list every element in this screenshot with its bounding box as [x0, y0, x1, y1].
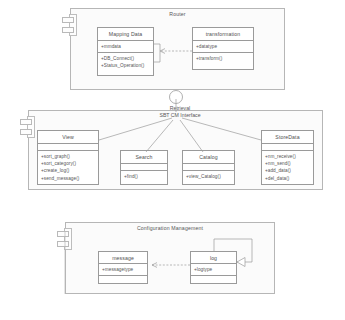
- class-message-attributes: +messagetype: [99, 264, 147, 276]
- component-icon-retrieval: [20, 116, 36, 138]
- class-view[interactable]: View +sort_graph() +sort_category() +cre…: [37, 130, 99, 185]
- component-router-title: Router: [71, 11, 284, 17]
- class-log-operations: [191, 276, 236, 283]
- component-configuration-management[interactable]: Configuration Management: [65, 222, 275, 294]
- class-transformation[interactable]: transformation +datatype +transform(): [192, 27, 254, 70]
- operation: +add_data(): [265, 167, 311, 174]
- operation: +create_log(): [41, 167, 96, 174]
- class-mapping-data-operations: +DB_Connect() +Status_Operation(): [98, 53, 153, 71]
- operation: +DB_Connect(): [101, 55, 151, 62]
- operation: +Status_Operation(): [101, 62, 151, 69]
- class-search-operations: +find(): [121, 171, 167, 182]
- class-transformation-title: transformation: [193, 28, 253, 41]
- operation: +send_message(): [41, 175, 96, 182]
- class-catalog-operations: +view_Catalog(): [183, 171, 234, 182]
- operation: +nm_send(): [265, 160, 311, 167]
- component-icon-configuration-management: [57, 228, 73, 250]
- class-mapping-data-attributes: +mmdata: [98, 41, 153, 53]
- operation: +del_data(): [265, 175, 311, 182]
- class-message[interactable]: message +messagetype: [98, 251, 148, 284]
- class-search-attributes: [121, 164, 167, 171]
- class-log-attributes: +logtype: [191, 264, 236, 276]
- class-log-title: log: [191, 252, 236, 264]
- component-retrieval-title: Retrieval: [140, 105, 220, 111]
- class-mapping-data-title: Mapping Data: [98, 28, 153, 41]
- interface-name-label: SBT CM Interface: [140, 112, 220, 118]
- class-view-title: View: [38, 131, 98, 144]
- operation: +find(): [124, 173, 165, 180]
- class-transformation-attributes: +datatype: [193, 41, 253, 53]
- interface-label-group: Retrieval SBT CM Interface: [140, 105, 220, 118]
- provided-interface-ball: [170, 91, 183, 104]
- class-log[interactable]: log +logtype: [190, 251, 237, 284]
- operation: +nm_receive(): [265, 153, 311, 160]
- class-catalog-title: Catalog: [183, 151, 234, 164]
- class-message-operations: [99, 276, 147, 283]
- diagram-canvas: Router Mapping Data +mmdata +DB_Connect(…: [0, 0, 345, 320]
- class-catalog-attributes: [183, 164, 234, 171]
- operation: +sort_category(): [41, 160, 96, 167]
- class-search[interactable]: Search +find(): [120, 150, 168, 185]
- attribute: +messagetype: [102, 266, 145, 273]
- class-store-data-title: StoreData: [262, 131, 313, 144]
- class-store-data-attributes: [262, 144, 313, 151]
- class-view-operations: +sort_graph() +sort_category() +create_l…: [38, 151, 98, 184]
- component-icon-router: [62, 14, 78, 36]
- component-configuration-management-title: Configuration Management: [66, 225, 274, 231]
- class-store-data-operations: +nm_receive() +nm_send() +add_data() +de…: [262, 151, 313, 184]
- class-transformation-operations: +transform(): [193, 53, 253, 64]
- class-store-data[interactable]: StoreData +nm_receive() +nm_send() +add_…: [261, 130, 314, 185]
- attribute: +logtype: [194, 266, 234, 273]
- class-view-attributes: [38, 144, 98, 151]
- operation: +view_Catalog(): [186, 173, 232, 180]
- operation: +transform(): [196, 55, 251, 62]
- attribute: +mmdata: [101, 43, 151, 50]
- class-catalog[interactable]: Catalog +view_Catalog(): [182, 150, 235, 185]
- class-mapping-data[interactable]: Mapping Data +mmdata +DB_Connect() +Stat…: [97, 27, 154, 76]
- operation: +sort_graph(): [41, 153, 96, 160]
- attribute: +datatype: [196, 43, 251, 50]
- class-search-title: Search: [121, 151, 167, 164]
- class-message-title: message: [99, 252, 147, 264]
